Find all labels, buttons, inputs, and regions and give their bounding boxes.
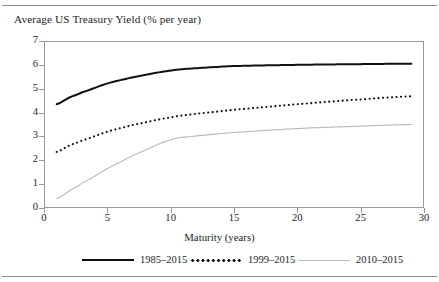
x-axis-tick-label: 15 [219, 213, 249, 224]
x-axis-title: Maturity (years) [0, 231, 439, 243]
y-axis-tick [39, 184, 44, 185]
y-axis-tick-label: 2 [22, 154, 38, 165]
x-axis-tick-label: 25 [346, 213, 376, 224]
series-line-2010-2015 [57, 125, 412, 199]
y-axis-tick [39, 41, 44, 42]
y-axis-tick-label: 0 [22, 202, 38, 213]
legend-label: 1999–2015 [248, 255, 295, 266]
legend-swatch-thin-light-icon [298, 260, 350, 261]
y-axis-tick-label: 7 [22, 35, 38, 46]
legend-label: 2010–2015 [356, 255, 403, 266]
legend-item[interactable]: 1985–2015 [82, 252, 187, 268]
legend-label: 1985–2015 [140, 255, 187, 266]
y-axis-tick-label: 5 [22, 83, 38, 94]
y-axis-tick [39, 89, 44, 90]
chart-legend: 1985–20151999–20152010–2015 [0, 252, 439, 268]
x-axis-tick-label: 0 [29, 213, 59, 224]
y-axis-tick-label: 6 [22, 59, 38, 70]
x-axis-tick-label: 30 [409, 213, 439, 224]
y-axis-tick-labels: 01234567 [22, 41, 38, 208]
legend-swatch-dotted-icon [190, 259, 242, 262]
legend-item[interactable]: 1999–2015 [190, 252, 295, 268]
legend-item[interactable]: 2010–2015 [298, 252, 403, 268]
x-axis-tick-labels: 051015202530 [0, 213, 439, 227]
figure-container: Average US Treasury Yield (% per year) 0… [0, 0, 439, 282]
y-axis-tick-label: 1 [22, 178, 38, 189]
x-axis-tick-label: 5 [92, 213, 122, 224]
y-axis-tick [39, 65, 44, 66]
series-line-1999-2015 [57, 96, 412, 152]
y-axis-tick-label: 3 [22, 130, 38, 141]
series-line-1985-2015 [57, 64, 412, 105]
chart-title: Average US Treasury Yield (% per year) [14, 13, 201, 25]
y-axis-tick [39, 160, 44, 161]
page-rule-top [2, 5, 437, 6]
y-axis-tick [39, 113, 44, 114]
x-axis-tick-label: 20 [282, 213, 312, 224]
legend-swatch-solid-icon [82, 259, 134, 261]
y-axis-tick [39, 136, 44, 137]
y-axis-tick-label: 4 [22, 107, 38, 118]
page-rule-bottom [2, 276, 437, 277]
series-layer [44, 41, 424, 208]
x-axis-tick-label: 10 [156, 213, 186, 224]
plot-area [44, 41, 424, 208]
